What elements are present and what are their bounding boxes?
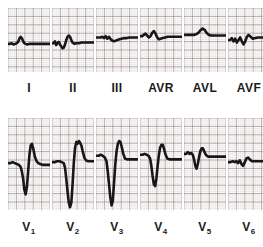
lead-V3-label: V3 — [96, 219, 138, 239]
lead-II-label: II — [52, 80, 94, 98]
lead-V3-panel — [96, 118, 138, 210]
lead-I-label: I — [8, 80, 50, 98]
ecg-waveform — [140, 118, 182, 210]
limb-leads-row — [0, 8, 263, 72]
lead-V2-panel — [52, 118, 94, 210]
ecg-waveform — [184, 8, 226, 72]
lead-label-text: V — [198, 220, 206, 234]
lead-label-text: AVL — [193, 81, 217, 95]
lead-V6-label: V6 — [228, 219, 263, 239]
lead-III-panel — [96, 8, 138, 72]
ecg-waveform — [140, 8, 182, 72]
lead-label-text: I — [27, 81, 31, 95]
lead-label-subscript: 6 — [251, 227, 256, 236]
chest-leads-row — [0, 118, 263, 210]
ecg-waveform — [96, 8, 138, 72]
lead-V4-label: V4 — [140, 219, 182, 239]
ecg-waveform — [228, 118, 263, 210]
ecg-waveform — [52, 8, 94, 72]
ecg-waveform — [8, 8, 50, 72]
lead-V6-panel — [228, 118, 263, 210]
chest-leads-label-row: V1V2V3V4V5V6 — [0, 219, 263, 239]
ecg-waveform — [52, 118, 94, 210]
ecg-waveform — [184, 118, 226, 210]
lead-label-text: V — [242, 220, 250, 234]
limb-leads-label-row: IIIIIIAVRAVLAVF — [0, 80, 263, 98]
lead-label-subscript: 3 — [119, 227, 124, 236]
lead-V5-panel — [184, 118, 226, 210]
lead-AVR-panel — [140, 8, 182, 72]
lead-label-text: V — [154, 220, 162, 234]
lead-label-text: III — [111, 81, 122, 95]
lead-V5-label: V5 — [184, 219, 226, 239]
lead-label-text: II — [69, 81, 76, 95]
lead-AVL-label: AVL — [184, 80, 226, 98]
lead-AVL-panel — [184, 8, 226, 72]
lead-V1-label: V1 — [8, 219, 50, 239]
lead-III-label: III — [96, 80, 138, 98]
lead-AVF-label: AVF — [228, 80, 263, 98]
ecg-waveform — [228, 8, 263, 72]
ecg-waveform — [8, 118, 50, 210]
ecg-figure: IIIIIIAVRAVLAVF V1V2V3V4V5V6 — [0, 0, 263, 247]
lead-label-subscript: 1 — [31, 227, 36, 236]
lead-V2-label: V2 — [52, 219, 94, 239]
lead-V1-panel — [8, 118, 50, 210]
lead-label-text: V — [22, 220, 30, 234]
lead-label-subscript: 2 — [75, 227, 80, 236]
lead-label-text: AVF — [237, 81, 261, 95]
lead-II-panel — [52, 8, 94, 72]
lead-V4-panel — [140, 118, 182, 210]
lead-label-text: V — [66, 220, 74, 234]
lead-label-text: AVR — [148, 81, 174, 95]
lead-label-subscript: 4 — [163, 227, 168, 236]
lead-AVF-panel — [228, 8, 263, 72]
lead-label-text: V — [110, 220, 118, 234]
lead-I-panel — [8, 8, 50, 72]
lead-AVR-label: AVR — [140, 80, 182, 98]
ecg-waveform — [96, 118, 138, 210]
lead-label-subscript: 5 — [207, 227, 212, 236]
